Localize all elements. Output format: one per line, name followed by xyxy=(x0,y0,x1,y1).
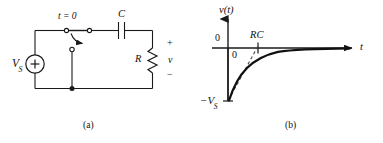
junction-node xyxy=(70,86,75,91)
plot-origin-label-upper: 0 xyxy=(215,33,220,43)
switch-terminal-left xyxy=(64,28,68,32)
switch-action-arrow xyxy=(71,34,83,44)
caption-a: (a) xyxy=(83,120,94,130)
switch-terminal-right xyxy=(87,28,91,32)
voltage-minus-sign: − xyxy=(167,70,173,80)
capacitor-label: C xyxy=(118,9,125,20)
figure-rc-circuit-and-response: VS t = 0 C R v + − v(t) 0 0 RC t −VS (a)… xyxy=(0,0,383,143)
plot-y-axis-label: v(t) xyxy=(219,5,234,16)
plot-response-curve xyxy=(229,48,350,100)
plot-tau-label: RC xyxy=(250,30,263,41)
switch-label: t = 0 xyxy=(58,12,77,22)
voltage-plus-sign: + xyxy=(167,38,173,48)
source-plus-glyph xyxy=(31,60,40,69)
plot-min-label: −VS xyxy=(200,95,218,109)
branch-voltage-label: v xyxy=(168,55,172,65)
source-label: VS xyxy=(12,58,23,72)
caption-b: (b) xyxy=(285,120,296,130)
plot-x-axis-label: t xyxy=(360,42,363,53)
resistor-label: R xyxy=(135,54,141,65)
switch-terminal-open-lower xyxy=(70,47,74,51)
plot-origin-label-lower: 0 xyxy=(232,50,237,60)
response-plot xyxy=(212,19,352,101)
resistor-symbol xyxy=(148,48,157,73)
